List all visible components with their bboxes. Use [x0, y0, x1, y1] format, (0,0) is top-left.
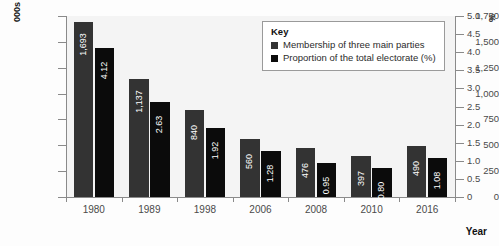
- bar-1989-series2[interactable]: 2.63: [150, 102, 170, 197]
- legend-key-box: Key Membership of three main parties Pro…: [262, 21, 445, 71]
- legend-title: Key: [271, 27, 436, 37]
- bar-value-label: 476: [301, 163, 310, 178]
- bar-value-label: 490: [412, 161, 421, 176]
- left-axis-tick: [58, 94, 66, 95]
- x-axis-tick: [288, 197, 289, 202]
- legend-swatch-icon-series2: [271, 55, 278, 62]
- x-axis-tick: [177, 197, 178, 202]
- right-axis-tick: [456, 107, 464, 108]
- x-axis-label-2010: 2010: [344, 205, 400, 215]
- x-axis-label-1998: 1998: [177, 205, 233, 215]
- x-axis-tick: [233, 197, 234, 202]
- bar-value-label: 0.80: [378, 182, 387, 200]
- legend-item-proportion: Proportion of the total electorate (%): [271, 53, 436, 64]
- right-axis-tick-label: 3.5: [467, 65, 495, 75]
- right-axis-tick: [456, 161, 464, 162]
- right-axis-tick-label: 0: [467, 192, 495, 202]
- bar-value-label: 0.95: [322, 176, 331, 194]
- right-axis-tick-label: 0.5: [467, 174, 495, 184]
- bar-2008-series2[interactable]: 0.95: [317, 163, 337, 197]
- bar-1980-series1[interactable]: 1,693: [74, 22, 94, 197]
- left-axis-tick-labels: [0, 0, 56, 246]
- x-axis-line: [66, 197, 456, 198]
- bar-2010-series1[interactable]: 397: [351, 156, 371, 197]
- right-axis-tick: [456, 197, 464, 198]
- bar-group: 8401.92: [185, 16, 226, 197]
- left-axis-tick: [58, 16, 66, 17]
- bar-value-label: 560: [246, 154, 255, 169]
- bar-2006-series1[interactable]: 560: [240, 139, 260, 197]
- x-axis-tick: [344, 197, 345, 202]
- bar-value-label: 1.92: [211, 141, 220, 159]
- x-axis-label-1980: 1980: [66, 205, 122, 215]
- right-axis-tick: [456, 143, 464, 144]
- right-axis-tick-label: 5.0: [467, 11, 495, 21]
- bar-value-label: 1.08: [433, 172, 442, 190]
- x-axis-label-2008: 2008: [288, 205, 344, 215]
- left-axis-unit-label: 000s: [12, 2, 22, 22]
- right-axis-tick-label: 4.0: [467, 47, 495, 57]
- bar-1998-series1[interactable]: 840: [185, 110, 205, 197]
- legend-item-membership: Membership of three main parties: [271, 40, 436, 51]
- right-axis-tick-label: 2.5: [467, 102, 495, 112]
- right-axis-tick-label: 1.5: [467, 138, 495, 148]
- bar-2008-series1[interactable]: 476: [296, 148, 316, 197]
- bar-1989-series1[interactable]: 1,137: [129, 79, 149, 197]
- bar-value-label: 397: [357, 171, 366, 186]
- right-axis-tick: [456, 179, 464, 180]
- chart-root: 000s % Year 1,6934.121,1372.638401.92560…: [0, 0, 499, 246]
- bar-value-label: 4.12: [100, 62, 109, 80]
- x-axis-tick: [66, 197, 67, 202]
- left-axis-tick: [58, 145, 66, 146]
- bar-1980-series2[interactable]: 4.12: [95, 48, 115, 197]
- left-axis-tick: [58, 197, 66, 198]
- x-axis-label-2006: 2006: [233, 205, 289, 215]
- bar-2016-series2[interactable]: 1.08: [428, 158, 448, 197]
- x-axis-tick: [455, 197, 456, 202]
- bar-value-label: 1,137: [134, 91, 143, 114]
- bar-value-label: 840: [190, 125, 199, 140]
- x-axis-tick: [122, 197, 123, 202]
- legend-label-series2: Proportion of the total electorate (%): [283, 53, 436, 64]
- right-axis-tick: [456, 125, 464, 126]
- bar-value-label: 2.63: [155, 116, 164, 134]
- bar-2006-series2[interactable]: 1.28: [261, 151, 281, 197]
- left-axis-tick: [58, 171, 66, 172]
- right-axis-tick: [456, 16, 464, 17]
- x-axis-title: Year: [466, 226, 487, 237]
- legend-label-series1: Membership of three main parties: [283, 40, 425, 51]
- bar-2010-series2[interactable]: 0.80: [372, 168, 392, 197]
- bar-group: 1,6934.12: [74, 16, 115, 197]
- right-axis-tick: [456, 88, 464, 89]
- left-axis-tick: [58, 68, 66, 69]
- right-axis-tick-label: 1.0: [467, 156, 495, 166]
- x-axis-tick: [399, 197, 400, 202]
- bar-value-label: 1.28: [267, 164, 276, 182]
- left-axis-tick: [58, 119, 66, 120]
- bar-group: 1,1372.63: [129, 16, 170, 197]
- right-axis-tick: [456, 34, 464, 35]
- left-axis-tick: [58, 42, 66, 43]
- right-axis-tick-label: 2.0: [467, 120, 495, 130]
- right-axis-tick: [456, 52, 464, 53]
- bar-2016-series1[interactable]: 490: [407, 146, 427, 197]
- bar-1998-series2[interactable]: 1.92: [206, 128, 226, 198]
- legend-swatch-icon-series1: [271, 42, 278, 49]
- right-axis-tick-label: 3.0: [467, 83, 495, 93]
- right-axis-tick-label: 4.5: [467, 29, 495, 39]
- right-axis-tick: [456, 70, 464, 71]
- bar-value-label: 1,693: [79, 33, 88, 56]
- x-axis-label-1989: 1989: [122, 205, 178, 215]
- x-axis-label-2016: 2016: [399, 205, 455, 215]
